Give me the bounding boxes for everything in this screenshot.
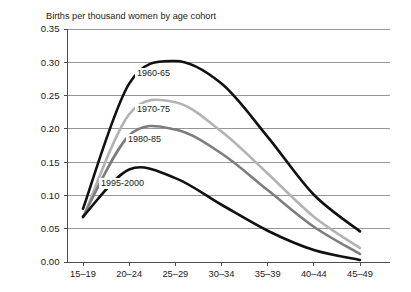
- y-axis-tick-label: 0.25: [41, 90, 60, 101]
- series-label-1970-75: 1970-75: [137, 104, 170, 114]
- x-axis-tick-label: 25–29: [162, 269, 188, 279]
- y-axis-tick-label: 0.30: [41, 57, 60, 68]
- y-axis-tick-label: 0.05: [41, 223, 60, 234]
- series-line-1970-75: [83, 100, 360, 248]
- series-lines: [83, 61, 360, 260]
- y-axis-tick-label: 0.35: [41, 23, 60, 34]
- series-label-1995-2000: 1995-2000: [101, 178, 144, 188]
- x-axis-tick-label: 40–44: [301, 269, 327, 279]
- series-line-1980-85: [83, 126, 360, 254]
- series-label-1960-65: 1960-65: [137, 68, 170, 78]
- y-axis-tick-label: 0.15: [41, 157, 60, 168]
- births-by-age-cohort-line-chart: Births per thousand women by age cohort …: [0, 0, 411, 292]
- gridlines: [68, 29, 391, 229]
- x-axis-tick-label: 45–49: [347, 269, 373, 279]
- y-axis-tick-label: 0.10: [41, 190, 60, 201]
- chart-container: Births per thousand women by age cohort …: [0, 0, 411, 292]
- y-axis-tick-labels: 0.000.050.100.150.200.250.300.35: [41, 23, 68, 267]
- x-axis-tick-label: 30–34: [209, 269, 235, 279]
- x-axis-tick-label: 15–19: [70, 269, 96, 279]
- chart-title: Births per thousand women by age cohort: [46, 11, 217, 21]
- x-axis-tick-label: 20–24: [116, 269, 142, 279]
- x-axis-tick-label: 35–39: [255, 269, 281, 279]
- series-label-1980-85: 1980-85: [128, 134, 161, 144]
- y-axis-tick-label: 0.00: [41, 256, 60, 267]
- x-axis-tick-labels: 15–1920–2425–2930–3435–3940–4445–49: [70, 262, 373, 279]
- y-axis-tick-label: 0.20: [41, 123, 60, 134]
